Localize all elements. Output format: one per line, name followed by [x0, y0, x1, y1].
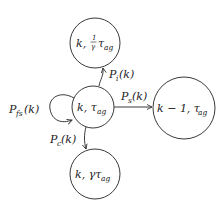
node-bottom-label-main: k, γτ: [75, 168, 102, 181]
edge-label-self-loop: P fs (k): [8, 103, 39, 118]
edge-label-to-bottom: P c (k): [49, 133, 76, 148]
self-loop-label-sub: fs: [15, 109, 23, 118]
edge-to-top: [99, 68, 103, 86]
state-diagram: k, 1 γ τ ag k, τ ag k − 1, τ ag k, γτ ag…: [0, 0, 222, 207]
edge-to-bottom: [85, 127, 87, 149]
to-right-label-arg: (k): [132, 90, 147, 103]
node-center-label-main: k, τ: [77, 101, 98, 114]
edge-label-to-top: P i (k): [108, 68, 134, 83]
node-top-sub: ag: [104, 43, 113, 52]
node-right-label: k − 1, τ ag: [157, 102, 207, 117]
node-right-label-main: k − 1, τ: [157, 102, 201, 115]
node-center-sub: ag: [97, 107, 106, 116]
node-right-sub: ag: [198, 108, 207, 117]
node-bottom-sub: ag: [101, 174, 110, 183]
to-top-label-arg: (k): [119, 68, 134, 81]
node-top-label-main: k,: [76, 37, 86, 50]
self-loop-edge: [50, 95, 74, 122]
self-loop-label-arg: (k): [24, 103, 39, 116]
node-top-frac-num: 1: [92, 34, 96, 42]
edge-label-to-right: P s (k): [120, 90, 147, 105]
to-bottom-label-arg: (k): [61, 133, 76, 146]
